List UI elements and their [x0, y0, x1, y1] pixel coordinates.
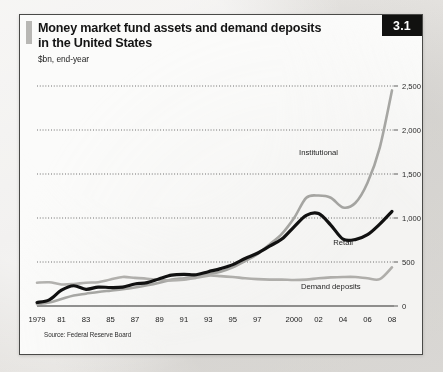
y-axis-tick-label: 1,000 — [402, 214, 421, 223]
y-axis-tick-label: 0 — [402, 302, 406, 311]
y-axis-tick-label: 1,500 — [402, 170, 421, 179]
x-axis-tick-label: 08 — [388, 315, 397, 324]
chart-card: Money market fund assets and demand depo… — [19, 14, 423, 355]
x-axis-tick-label: 02 — [314, 315, 323, 324]
x-axis-tick-label: 91 — [180, 315, 189, 324]
y-axis-tick-label: 2,000 — [402, 126, 421, 135]
y-axis-tick-label: 2,500 — [402, 82, 421, 91]
series-label-retail: Retail — [333, 238, 353, 247]
x-axis-tick-label: 85 — [106, 315, 115, 324]
x-axis-tick-label: 06 — [363, 315, 372, 324]
x-axis-tick-label: 89 — [155, 315, 164, 324]
x-axis-tick-label: 83 — [82, 315, 91, 324]
x-axis-tick-label: 2000 — [286, 315, 303, 324]
x-axis-tick-label: 04 — [339, 315, 348, 324]
x-axis-tick-label: 1979 — [28, 315, 45, 324]
y-axis-tick-label: 500 — [402, 258, 415, 267]
x-axis-tick-label: 97 — [253, 315, 262, 324]
line-chart-plot: 05001,0001,5002,0002,500InstitutionalRet… — [20, 15, 424, 356]
series-line-institutional — [37, 90, 392, 304]
x-axis-tick-label: 95 — [229, 315, 238, 324]
source-note: Source: Federal Reserve Board — [44, 331, 131, 338]
series-label-demand-deposits: Demand deposits — [301, 282, 361, 291]
x-axis-tick-label: 81 — [57, 315, 66, 324]
x-axis-tick-label: 87 — [131, 315, 140, 324]
page-background: Money market fund assets and demand depo… — [0, 0, 443, 372]
series-label-institutional: Institutional — [299, 148, 338, 157]
x-axis-tick-label: 93 — [204, 315, 213, 324]
